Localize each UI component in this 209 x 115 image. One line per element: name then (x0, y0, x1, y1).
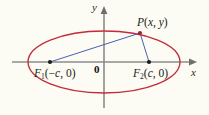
point-p-paren-close: ) (164, 16, 168, 28)
focus-2-label: F2(c, 0) (133, 68, 168, 81)
focus-1-dot (48, 60, 52, 64)
x-axis-label: x (191, 67, 196, 78)
point-p-label: P(x, y) (137, 17, 168, 29)
figure-canvas (0, 0, 209, 115)
focal-radius-f1-p (50, 33, 140, 62)
y-axis-label: y (92, 2, 97, 13)
point-p-letter: P (137, 16, 144, 28)
y-axis-arrowhead (101, 6, 108, 14)
focus-1-paren-close: , 0) (60, 67, 75, 79)
focus-2-dot (147, 60, 151, 64)
focus-2-letter: F (133, 67, 140, 79)
origin-label: 0 (94, 64, 100, 75)
focus-2-paren-close: , 0) (153, 67, 168, 79)
ellipse-figure: y x 0 F1(−c, 0) F2(c, 0) P(x, y) (0, 0, 209, 115)
focus-1-paren-open: (− (45, 67, 55, 79)
focal-radius-f2-p (140, 33, 149, 62)
focus-1-label: F1(−c, 0) (34, 68, 76, 81)
focus-1-letter: F (34, 67, 41, 79)
point-p-dot (138, 31, 142, 35)
x-axis-arrowhead (189, 59, 197, 66)
